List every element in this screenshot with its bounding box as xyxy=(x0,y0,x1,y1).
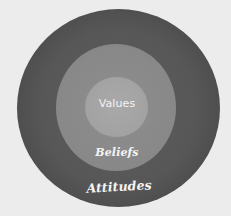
beliefs-label: Beliefs xyxy=(95,146,138,159)
concentric-circles-diagram: Values Beliefs Attitudes xyxy=(0,0,231,216)
values-label: Values xyxy=(99,97,136,110)
